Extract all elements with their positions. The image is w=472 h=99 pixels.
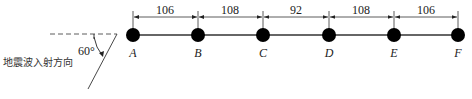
spacing-label-ef: 106 — [417, 3, 435, 17]
node-label-a: A — [128, 46, 137, 60]
spacing-label-de: 108 — [352, 3, 370, 17]
node-f — [451, 28, 465, 42]
node-label-e: E — [389, 46, 398, 60]
node-label-f: F — [453, 46, 462, 60]
spacing-label-ab: 106 — [156, 3, 174, 17]
node-label-b: B — [194, 46, 202, 60]
node-c — [256, 28, 270, 42]
node-e — [387, 28, 401, 42]
angle-label: 60° — [78, 44, 95, 58]
diagram-canvas: 106 108 92 108 106 A B C D E F 60° — [0, 0, 472, 99]
node-d — [322, 28, 336, 42]
node-label-c: C — [259, 46, 268, 60]
node-label-d: D — [324, 46, 334, 60]
diagram-svg: 106 108 92 108 106 A B C D E F 60° — [0, 0, 472, 99]
incident-wave-line — [88, 34, 117, 89]
spacing-label-cd: 92 — [290, 3, 302, 17]
node-a — [126, 28, 140, 42]
incidence-direction-label: 地震波入射方向 — [3, 56, 73, 68]
spacing-label-bc: 108 — [221, 3, 239, 17]
node-b — [191, 28, 205, 42]
